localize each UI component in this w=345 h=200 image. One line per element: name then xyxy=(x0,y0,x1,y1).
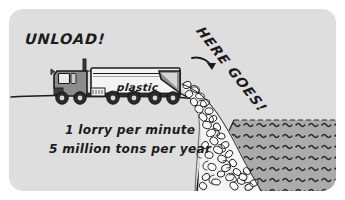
illustration-card: UNLOAD! HERE GOES! plastic 1 lorry per m… xyxy=(9,9,336,191)
here-goes-arrow xyxy=(192,57,216,70)
lorry-exhaust xyxy=(83,59,86,71)
lorry-windscreen xyxy=(59,74,70,84)
lorry-cargo-label: plastic xyxy=(116,82,159,93)
statistics-block: 1 lorry per minute 5 million tons per ye… xyxy=(49,121,211,159)
illustration-scene: UNLOAD! HERE GOES! plastic 1 lorry per m… xyxy=(0,0,345,200)
unload-label: UNLOAD! xyxy=(24,32,105,47)
statistic-line-2: 5 million tons per year xyxy=(49,140,211,159)
statistic-line-1: 1 lorry per minute xyxy=(49,121,211,140)
